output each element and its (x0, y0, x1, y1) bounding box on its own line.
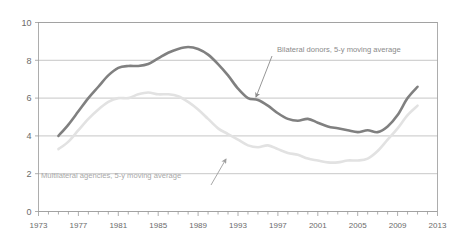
y-tick-label-4: 4 (26, 131, 31, 141)
chart-container: USD billion 0246810 19731977198119851989… (0, 0, 449, 251)
x-tick-label-2013: 2013 (429, 221, 447, 230)
y-tick-label-0: 0 (26, 207, 31, 217)
x-tick-label-2005: 2005 (349, 221, 367, 230)
y-tick-label-6: 6 (26, 93, 31, 103)
x-tick-label-1997: 1997 (269, 221, 287, 230)
x-tick-label-1985: 1985 (149, 221, 167, 230)
x-tick-label-1993: 1993 (229, 221, 247, 230)
x-tick-label-2009: 2009 (389, 221, 407, 230)
y-tick-label-10: 10 (21, 18, 31, 28)
x-tick-label-1989: 1989 (189, 221, 207, 230)
x-tick-label-1973: 1973 (30, 221, 48, 230)
x-tick-label-2001: 2001 (309, 221, 327, 230)
x-tick-label-1977: 1977 (70, 221, 88, 230)
bilateral-annotation-label: Bilateral donors, 5-y moving average (277, 45, 401, 54)
multilateral-annotation-label: Multilateral agencies, 5-y moving averag… (41, 171, 181, 180)
line-chart: 0246810 19731977198119851989199319972001… (0, 0, 449, 251)
y-tick-label-2: 2 (26, 169, 31, 179)
x-tick-label-1981: 1981 (109, 221, 127, 230)
y-tick-label-8: 8 (26, 56, 31, 66)
